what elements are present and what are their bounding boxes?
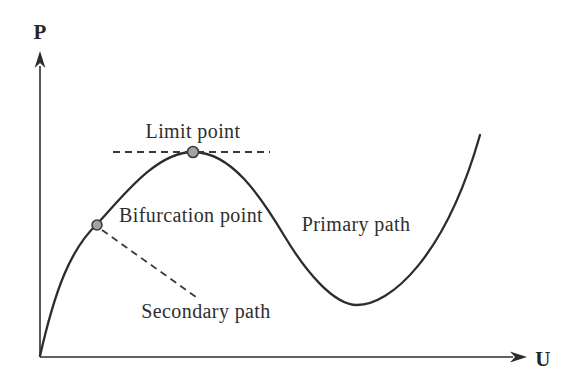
secondary-path-dashed-line [102, 230, 196, 297]
limit-point-marker [188, 147, 199, 158]
y-axis-arrowhead-icon [35, 51, 46, 68]
y-axis-label: P [33, 20, 46, 45]
bifurcation-point-label: Bifurcation point [119, 204, 263, 227]
primary-path-curve [40, 135, 480, 356]
limit-point-label: Limit point [146, 120, 241, 143]
equilibrium-path-figure: P U Limit point Bifurcation point Primar… [0, 0, 572, 384]
primary-path-label: Primary path [302, 213, 411, 236]
x-axis-label: U [535, 347, 551, 372]
secondary-path-label: Secondary path [141, 300, 270, 323]
diagram-canvas [0, 0, 572, 384]
bifurcation-point-marker [92, 220, 102, 230]
